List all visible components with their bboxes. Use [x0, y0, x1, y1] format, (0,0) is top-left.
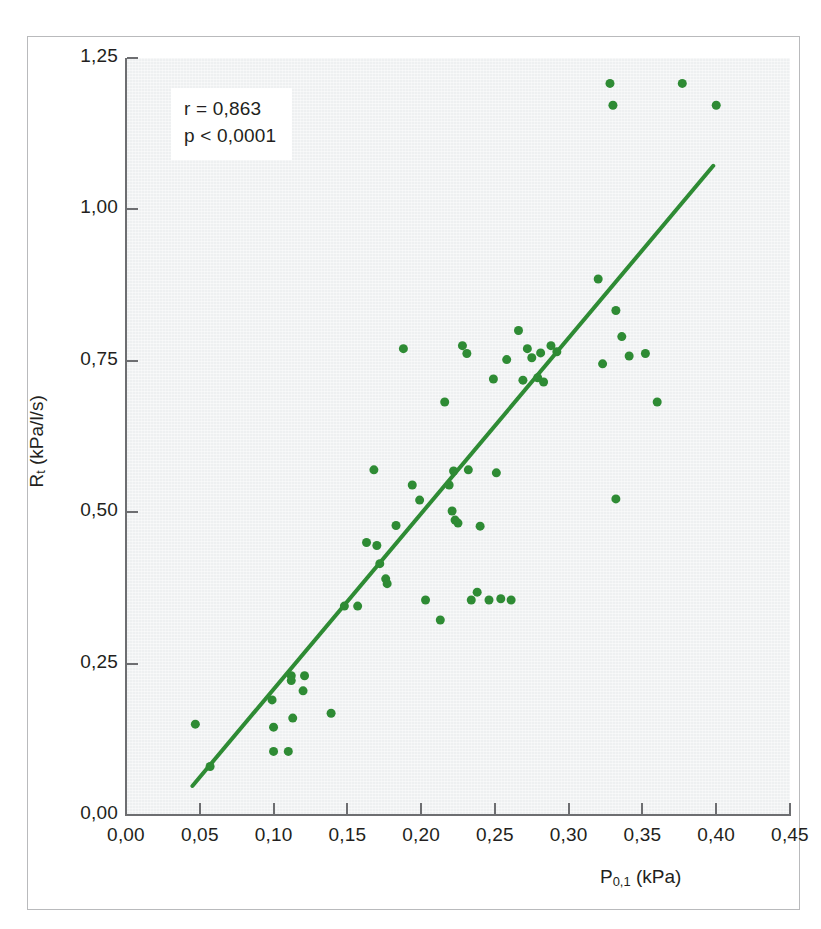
data-point-marker	[617, 332, 626, 341]
data-point-marker	[507, 596, 516, 605]
data-point-marker	[641, 349, 650, 358]
regression-line	[192, 166, 713, 786]
data-point-marker	[340, 602, 349, 611]
data-point-marker	[421, 596, 430, 605]
data-point-marker	[375, 559, 384, 568]
data-point-marker	[458, 341, 467, 350]
y-axis-title: Rt (kPa/l/s)	[26, 341, 49, 541]
data-point-marker	[440, 397, 449, 406]
scatter-plot-canvas	[0, 0, 821, 929]
data-point-marker	[392, 521, 401, 530]
data-point-marker	[514, 326, 523, 335]
data-point-marker	[408, 480, 417, 489]
data-point-marker	[462, 349, 471, 358]
data-point-marker	[476, 522, 485, 531]
data-point-marker	[605, 79, 614, 88]
data-point-marker	[362, 538, 371, 547]
data-point-marker	[712, 101, 721, 110]
stats-annotation-box: r = 0,863 p < 0,0001	[171, 88, 292, 160]
data-point-marker	[527, 353, 536, 362]
data-point-marker	[464, 465, 473, 474]
data-point-marker	[496, 594, 505, 603]
data-point-marker	[492, 468, 501, 477]
data-point-marker	[284, 747, 293, 756]
data-point-marker	[608, 101, 617, 110]
data-point-marker	[594, 275, 603, 284]
data-point-marker	[191, 720, 200, 729]
data-point-marker	[489, 374, 498, 383]
p-value-label: p < 0,0001	[184, 123, 276, 150]
data-point-marker	[415, 496, 424, 505]
data-point-marker	[445, 480, 454, 489]
data-point-marker	[287, 676, 296, 685]
data-point-marker	[536, 348, 545, 357]
data-point-marker	[353, 602, 362, 611]
data-point-marker	[625, 351, 634, 360]
data-point-marker	[300, 671, 309, 680]
data-point-marker	[539, 378, 548, 387]
data-point-marker	[484, 596, 493, 605]
data-point-marker	[449, 467, 458, 476]
data-point-marker	[473, 588, 482, 597]
data-point-marker	[372, 541, 381, 550]
regression-line-segment	[192, 166, 713, 786]
data-point-marker	[436, 616, 445, 625]
data-point-marker	[383, 579, 392, 588]
data-point-marker	[523, 344, 532, 353]
x-axis-title-base: P	[600, 866, 613, 887]
data-point-marker	[611, 306, 620, 315]
data-point-marker	[268, 695, 277, 704]
data-point-marker	[518, 376, 527, 385]
data-point-marker	[369, 465, 378, 474]
x-axis-title: P0,1 (kPa)	[600, 866, 681, 889]
correlation-coefficient-label: r = 0,863	[184, 96, 276, 123]
x-axis-title-subscript: 0,1	[613, 874, 631, 889]
data-point-marker	[653, 397, 662, 406]
y-axis-title-unit: (kPa/l/s)	[26, 395, 47, 465]
data-point-marker	[611, 494, 620, 503]
x-axis-title-unit: (kPa)	[636, 866, 681, 887]
data-point-marker	[598, 359, 607, 368]
data-point-marker	[299, 686, 308, 695]
data-point-marker	[678, 79, 687, 88]
data-point-marker	[206, 762, 215, 771]
data-point-marker	[269, 723, 278, 732]
data-point-marker	[467, 596, 476, 605]
data-point-marker	[269, 747, 278, 756]
data-point-marker	[327, 709, 336, 718]
y-axis-title-subscript: t	[33, 470, 48, 474]
data-point-marker	[448, 506, 457, 515]
data-point-marker	[399, 344, 408, 353]
data-points-group	[191, 79, 721, 771]
data-point-marker	[552, 347, 561, 356]
y-axis-title-base: R	[26, 474, 47, 488]
data-point-marker	[502, 355, 511, 364]
data-point-marker	[454, 519, 463, 528]
data-point-marker	[288, 714, 297, 723]
